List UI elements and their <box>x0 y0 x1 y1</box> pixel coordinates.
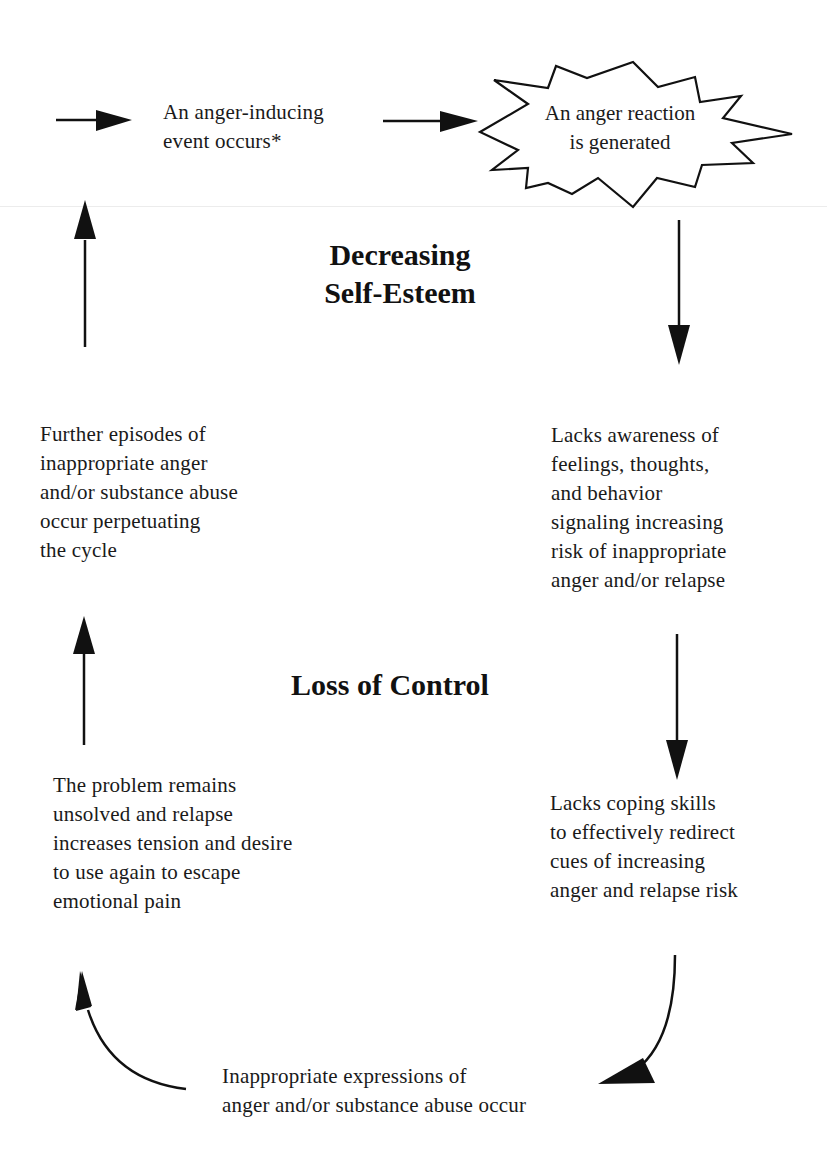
arrow-down-icon <box>668 220 690 365</box>
heading-decreasing-self-esteem: Decreasing Self-Esteem <box>270 236 530 312</box>
arrow-down-icon <box>666 634 688 780</box>
arrow-right-icon <box>56 110 132 131</box>
curved-arrow-icon <box>75 971 186 1089</box>
node-lacks-coping: Lacks coping skills to effectively redir… <box>550 789 738 905</box>
node-problem-unsolved: The problem remains unsolved and relapse… <box>53 771 292 916</box>
node-reaction: An anger reaction is generated <box>520 99 720 157</box>
node-further-episodes: Further episodes of inappropriate anger … <box>40 420 238 565</box>
curved-arrow-icon <box>598 955 675 1084</box>
node-event: An anger-inducing event occurs* <box>163 98 324 156</box>
arrow-up-icon <box>74 200 96 347</box>
arrow-up-icon <box>73 616 95 745</box>
arrow-right-icon <box>383 111 478 132</box>
node-lacks-awareness: Lacks awareness of feelings, thoughts, a… <box>551 421 727 595</box>
node-inappropriate-expressions: Inappropriate expressions of anger and/o… <box>222 1062 526 1120</box>
heading-loss-of-control: Loss of Control <box>240 666 540 704</box>
